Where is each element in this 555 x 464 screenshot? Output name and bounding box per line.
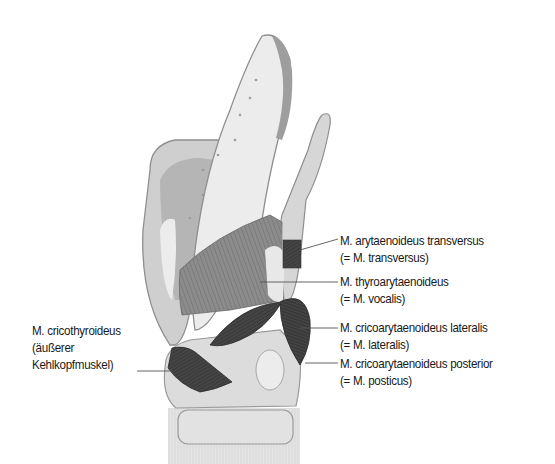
trachea (168, 408, 300, 464)
label-arytaenoideus-transversus: M. arytaenoideus transversus (= M. trans… (340, 232, 484, 266)
label-cricothyroideus: M. cricothyroideus (äußerer Kehlkopfmusk… (32, 322, 121, 373)
label-cricoarytaenoideus-posterior: M. cricoarytaenoideus posterior (= M. po… (340, 355, 493, 389)
leader-transversus (300, 239, 338, 250)
transverse-arytenoid-muscle (283, 240, 301, 268)
label-thyroarytaenoideus: M. thyroarytaenoideus (= M. vocalis) (340, 273, 449, 307)
label-cricoarytaenoideus-lateralis: M. cricoarytaenoideus lateralis (= M. la… (340, 319, 487, 353)
